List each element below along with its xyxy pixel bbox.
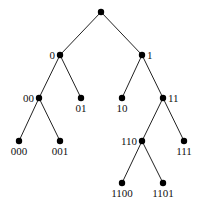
tree-edge — [39, 55, 60, 98]
node-label: 10 — [117, 102, 129, 114]
tree-nodes — [16, 9, 187, 186]
node-label: 001 — [52, 145, 69, 157]
tree-edge — [142, 141, 163, 183]
tree-node-00 — [36, 95, 42, 101]
tree-edge — [122, 141, 142, 183]
tree-edge — [39, 98, 60, 141]
tree-edge — [19, 98, 39, 141]
tree-node-111 — [181, 138, 187, 144]
tree-edge — [60, 12, 101, 55]
node-label: 11 — [168, 92, 179, 104]
tree-node-11 — [160, 95, 166, 101]
tree-node-1101 — [160, 180, 166, 186]
tree-node-001 — [57, 138, 63, 144]
tree-edge — [142, 98, 163, 141]
tree-node-01 — [78, 95, 84, 101]
tree-edge — [60, 55, 81, 98]
tree-edges — [19, 12, 184, 183]
node-label: 1 — [147, 49, 153, 61]
tree-node-0 — [57, 52, 63, 58]
tree-node-root — [98, 9, 104, 15]
tree-node-10 — [119, 95, 125, 101]
tree-edge — [122, 55, 142, 98]
tree-node-000 — [16, 138, 22, 144]
node-label: 1101 — [152, 187, 174, 199]
binary-tree-diagram: 010001101100000111011111001101 — [0, 0, 203, 213]
tree-node-1 — [139, 52, 145, 58]
node-label: 01 — [76, 102, 87, 114]
node-label: 000 — [11, 145, 28, 157]
tree-edge — [101, 12, 142, 55]
node-label: 111 — [176, 145, 192, 157]
tree-node-1100 — [119, 180, 125, 186]
tree-edge — [142, 55, 163, 98]
node-label: 1100 — [111, 187, 133, 199]
node-label: 110 — [121, 135, 138, 147]
node-label: 00 — [23, 92, 35, 104]
tree-labels: 010001101100000111011111001101 — [11, 49, 192, 199]
node-label: 0 — [50, 49, 56, 61]
tree-edge — [163, 98, 184, 141]
tree-node-110 — [139, 138, 145, 144]
